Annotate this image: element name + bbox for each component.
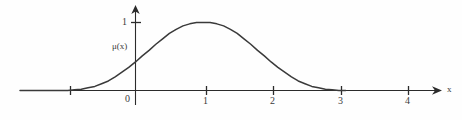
y-tick-label-1: 1: [122, 17, 127, 27]
x-axis-label: x: [447, 85, 452, 94]
plot-canvas: [0, 0, 462, 120]
x-tick-label-4: 4: [405, 96, 410, 106]
x-tick-label-2: 2: [270, 96, 275, 106]
x-tick-label-1: 1: [203, 96, 208, 106]
membership-curve: [20, 23, 346, 91]
membership-function-figure: 1 μ(x) 0 1 2 3 4 x: [0, 0, 462, 120]
x-tick-label-3: 3: [338, 96, 343, 106]
function-label-mu-x: μ(x): [112, 42, 127, 51]
x-tick-label-0: 0: [125, 94, 130, 104]
